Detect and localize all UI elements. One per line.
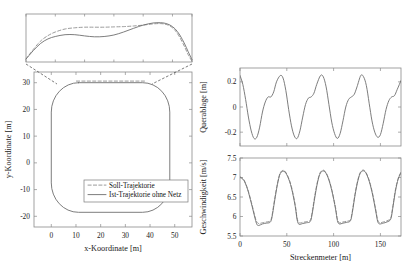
geschwindigkeit-xlabel: Streckenmeter [m] (290, 253, 351, 262)
trajectory-xlabel: x-Koordinate [m] (84, 244, 142, 253)
svg-text:7.5: 7.5 (227, 154, 237, 163)
svg-text:0.2: 0.2 (227, 77, 237, 86)
legend-label-1: Soll-Trajektorie (109, 182, 155, 190)
svg-text:10: 10 (23, 132, 31, 141)
svg-text:0: 0 (238, 240, 242, 249)
svg-text:6: 6 (233, 212, 237, 221)
trajectory-plot: 01020304050-20-100102030x-Koordinate [m]… (0, 62, 196, 267)
querablage-plot: -0.200.2Querablage [m] (196, 62, 403, 157)
geschwindigkeit-panel: 0501001505.566.577.5Geschwindigkeit [m/s… (196, 152, 403, 267)
svg-text:0: 0 (26, 158, 30, 167)
inset-detail-plot (24, 12, 194, 64)
querablage-panel: -0.200.2Querablage [m] (196, 62, 403, 157)
svg-text:0: 0 (233, 103, 237, 112)
svg-text:50: 50 (171, 231, 179, 240)
svg-text:10: 10 (72, 231, 80, 240)
svg-text:0: 0 (49, 231, 53, 240)
geschwindigkeit-plot: 0501001505.566.577.5Geschwindigkeit [m/s… (196, 152, 403, 267)
geschwindigkeit-ylabel: Geschwindigkeit [m/s] (199, 159, 208, 234)
svg-text:6.5: 6.5 (227, 193, 237, 202)
svg-text:-10: -10 (20, 185, 30, 194)
querablage-ylabel: Querablage [m] (199, 81, 208, 133)
trajectory-panel: 01020304050-20-100102030x-Koordinate [m]… (0, 62, 196, 267)
svg-text:7: 7 (233, 173, 237, 182)
svg-text:-20: -20 (20, 212, 30, 221)
svg-text:30: 30 (23, 78, 31, 87)
svg-text:150: 150 (375, 240, 386, 249)
svg-text:20: 20 (97, 231, 105, 240)
svg-text:40: 40 (146, 231, 154, 240)
trajectory-ylabel: y-Koordinate [m] (4, 120, 13, 178)
geschwindigkeit-frame (240, 158, 401, 236)
svg-text:30: 30 (122, 231, 130, 240)
svg-text:100: 100 (328, 240, 339, 249)
inset-detail-panel (24, 12, 194, 64)
trajectory-frame (34, 72, 192, 227)
legend-label-2: Ist-Trajektorie ohne Netz (109, 191, 181, 199)
svg-text:-0.2: -0.2 (225, 128, 237, 137)
svg-text:20: 20 (23, 105, 31, 114)
figure-root: 01020304050-20-100102030x-Koordinate [m]… (0, 0, 403, 267)
svg-text:5.5: 5.5 (227, 232, 237, 241)
svg-text:50: 50 (283, 240, 291, 249)
